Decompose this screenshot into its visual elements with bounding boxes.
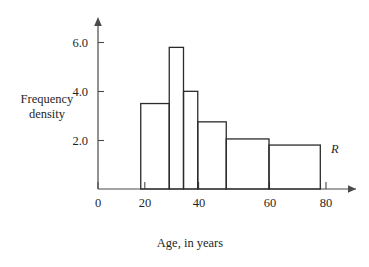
histogram-bar [184,91,198,189]
x-tick-marks [98,182,326,189]
y-axis-title-line-2: density [8,107,86,122]
x-axis-title: Age, in years [130,236,250,251]
axes-group [94,17,356,193]
x-tick-label-20: 20 [132,196,158,211]
histogram-bars [141,47,321,189]
y-axis-title-line-1: Frequency [8,92,86,107]
histogram-bar [198,122,227,189]
y-axis-title: Frequency density [8,92,86,122]
y-tick-marks [98,43,104,141]
histogram-bar [141,104,170,189]
y-tick-label-6: 6.0 [56,36,88,51]
histogram-bar [169,47,183,189]
y-axis-arrow-icon [94,17,102,26]
x-axis-arrow-icon [348,185,356,193]
histogram-bar [226,139,269,189]
x-tick-label-80: 80 [313,196,339,211]
histogram-bar [269,145,320,189]
x-tick-label-0: 0 [86,196,110,211]
y-tick-label-2: 2.0 [56,134,88,149]
x-tick-label-40: 40 [186,196,212,211]
x-tick-label-60: 60 [257,196,283,211]
region-label-r: R [331,142,339,157]
histogram-figure: 6.0 4.0 2.0 0 20 40 60 80 Frequency dens… [0,0,369,267]
